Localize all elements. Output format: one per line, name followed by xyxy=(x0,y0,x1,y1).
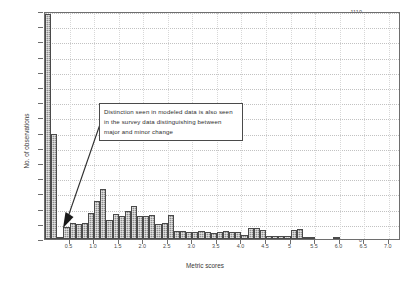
y-axis-tick-mark xyxy=(38,194,43,195)
y-axis-tick-mark xyxy=(38,179,43,180)
x-axis-tick-mark xyxy=(69,240,70,244)
y-axis-tick-mark xyxy=(38,164,43,165)
y-axis-tick-mark xyxy=(38,42,43,43)
x-axis-tick-mark xyxy=(142,240,143,244)
x-axis-tick-mark xyxy=(93,240,94,244)
y-axis-tick-mark xyxy=(38,149,43,150)
annotation-text: Distinction seen in modeled data is also… xyxy=(104,108,233,135)
x-axis-tick-mark xyxy=(191,240,192,244)
x-axis-tick-mark xyxy=(314,240,315,244)
y-axis-tick-mark xyxy=(38,88,43,89)
histogram-bar xyxy=(309,237,315,239)
histogram-bar xyxy=(333,237,339,239)
histogram-figure: No. of observations 07414822229637044451… xyxy=(0,0,410,281)
histogram-bar xyxy=(51,134,57,239)
y-axis-tick-mark xyxy=(38,103,43,104)
x-axis-tick-mark xyxy=(339,240,340,244)
y-axis-title: No. of observations xyxy=(23,113,30,168)
x-axis-tick-mark xyxy=(388,240,389,244)
y-axis-tick-mark xyxy=(38,118,43,119)
y-axis-tick-mark xyxy=(38,240,43,241)
y-axis-tick-mark xyxy=(38,210,43,211)
x-axis-title: Metric scores xyxy=(0,262,410,269)
y-axis-tick-mark xyxy=(38,225,43,226)
x-axis-tick-mark xyxy=(290,240,291,244)
x-axis-tick-mark xyxy=(240,240,241,244)
x-axis-tick-mark xyxy=(265,240,266,244)
x-axis-tick-mark xyxy=(118,240,119,244)
y-axis-tick-mark xyxy=(38,27,43,28)
x-axis-tick-mark xyxy=(216,240,217,244)
x-axis-tick-mark xyxy=(167,240,168,244)
y-axis-tick-mark xyxy=(38,73,43,74)
y-axis-tick-mark xyxy=(38,12,43,13)
annotation-textbox: Distinction seen in modeled data is also… xyxy=(99,103,243,141)
y-axis-tick-mark xyxy=(38,58,43,59)
y-axis-tick-mark xyxy=(38,134,43,135)
x-axis-tick-mark xyxy=(363,240,364,244)
